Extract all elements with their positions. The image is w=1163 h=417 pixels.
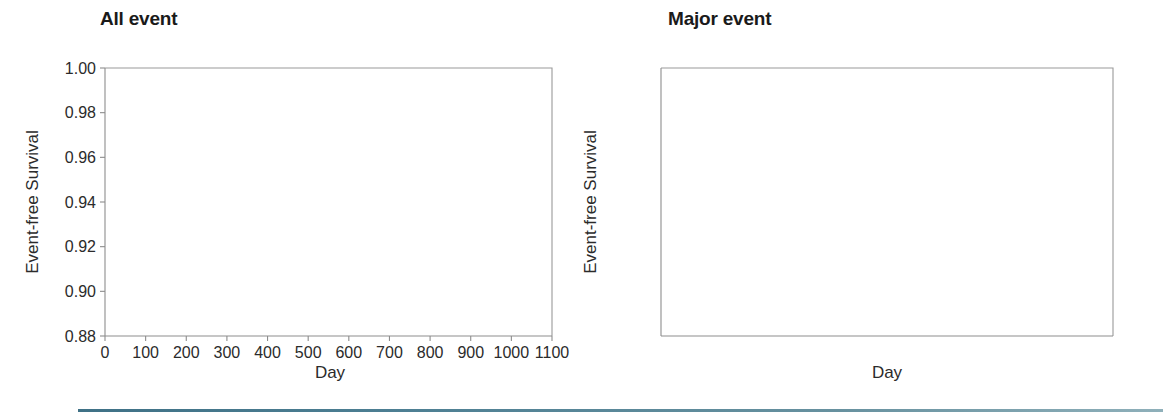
y-tick-label: 0.96 xyxy=(65,149,96,166)
y-tick-label: 0.94 xyxy=(65,194,96,211)
x-tick-label: 800 xyxy=(417,344,444,361)
y-tick-label: 0.92 xyxy=(65,238,96,255)
x-tick-label: 600 xyxy=(335,344,362,361)
footer-rule xyxy=(78,409,1163,412)
plot-major-event: Day Event-free Survival xyxy=(560,0,1163,400)
x-tick-label: 1000 xyxy=(494,344,530,361)
y-tick-label: 1.00 xyxy=(65,60,96,77)
y-tick-label: 0.88 xyxy=(65,328,96,345)
plot-frame-all-event xyxy=(105,68,552,336)
survival-figure: All event 0.880.900.920.940.960.981.00 0… xyxy=(0,0,1163,417)
y-axis-ticks-all-event: 0.880.900.920.940.960.981.00 xyxy=(65,60,105,345)
x-tick-label: 500 xyxy=(295,344,322,361)
x-tick-label: 0 xyxy=(101,344,110,361)
x-axis-title-major-event: Day xyxy=(872,363,903,382)
x-tick-label: 400 xyxy=(254,344,281,361)
x-axis-title-all-event: Day xyxy=(315,363,346,382)
y-axis-title-all-event: Event-free Survival xyxy=(23,130,42,274)
y-tick-label: 0.98 xyxy=(65,104,96,121)
x-tick-label: 900 xyxy=(457,344,484,361)
panel-major-event: Major event Day Event-free Survival xyxy=(560,0,1163,400)
plot-frame-major-event xyxy=(661,68,1113,336)
x-axis-ticks-all-event: 010020030040050060070080090010001100 xyxy=(101,336,570,361)
x-tick-label: 300 xyxy=(214,344,241,361)
x-tick-label: 200 xyxy=(173,344,200,361)
panel-all-event: All event 0.880.900.920.940.960.981.00 0… xyxy=(0,0,580,400)
x-tick-label: 100 xyxy=(132,344,159,361)
y-tick-label: 0.90 xyxy=(65,283,96,300)
plot-all-event: 0.880.900.920.940.960.981.00 01002003004… xyxy=(0,0,580,400)
x-tick-label: 700 xyxy=(376,344,403,361)
y-axis-title-major-event: Event-free Survival xyxy=(581,130,600,274)
